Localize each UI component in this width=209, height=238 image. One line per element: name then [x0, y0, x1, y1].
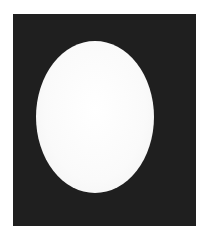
dark-background: [13, 14, 196, 226]
image-canvas: [0, 0, 209, 238]
white-oval: [36, 41, 154, 193]
